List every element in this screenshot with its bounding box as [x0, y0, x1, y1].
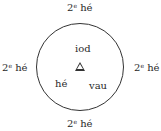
label-top-2e-he: 2e hé	[67, 3, 92, 13]
label-iod: iod	[75, 44, 91, 54]
label-left-2e-he: 2e hé	[2, 63, 27, 73]
label-right-2e-he: 2e hé	[134, 63, 159, 73]
label-vau: vau	[89, 81, 107, 91]
label-he: hé	[55, 79, 67, 89]
label-bottom-2e-he: 2e hé	[67, 119, 92, 129]
triangle-icon	[75, 62, 85, 71]
